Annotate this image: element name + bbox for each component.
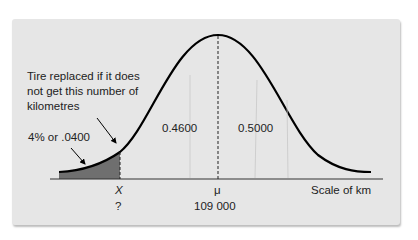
left-area-label: 0.4600 <box>162 121 197 136</box>
mean-symbol: μ <box>214 183 221 198</box>
axis-label: Scale of km <box>311 183 371 198</box>
annotation-line-3: kilometres <box>27 99 79 114</box>
annotation-line-2: not get this number of <box>27 84 138 99</box>
x-marker-label: X <box>115 183 123 198</box>
shaded-tail-region <box>59 152 120 179</box>
tail-arrow <box>71 148 85 164</box>
annotation-arrow <box>97 118 116 143</box>
normal-curve <box>59 35 371 172</box>
x-value-label: ? <box>115 199 121 214</box>
annotation-line-1: Tire replaced if it does <box>27 69 140 84</box>
mean-value: 109 000 <box>194 199 236 214</box>
tail-label: 4% or .0400 <box>28 130 90 145</box>
right-area-label: 0.5000 <box>238 121 273 136</box>
